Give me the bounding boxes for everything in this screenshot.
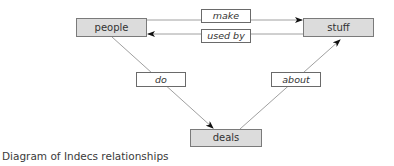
relationship-about-label: about <box>282 75 309 85</box>
node-stuff-label: stuff <box>327 23 349 33</box>
relationship-do: do <box>136 72 186 87</box>
node-stuff: stuff <box>303 18 374 37</box>
relationship-make: make <box>201 9 251 23</box>
relationship-used-by-label: used by <box>207 31 245 41</box>
relationship-used-by: used by <box>201 29 251 43</box>
node-deals: deals <box>190 129 262 147</box>
node-people-label: people <box>95 23 129 33</box>
indecs-diagram: people stuff deals make used by do about <box>0 0 394 166</box>
node-people: people <box>76 18 147 37</box>
node-deals-label: deals <box>213 133 240 143</box>
relationship-do-label: do <box>155 75 167 85</box>
relationship-make-label: make <box>213 11 239 21</box>
relationship-about: about <box>271 72 321 87</box>
figure-caption: Diagram of Indecs relationships <box>2 150 169 162</box>
